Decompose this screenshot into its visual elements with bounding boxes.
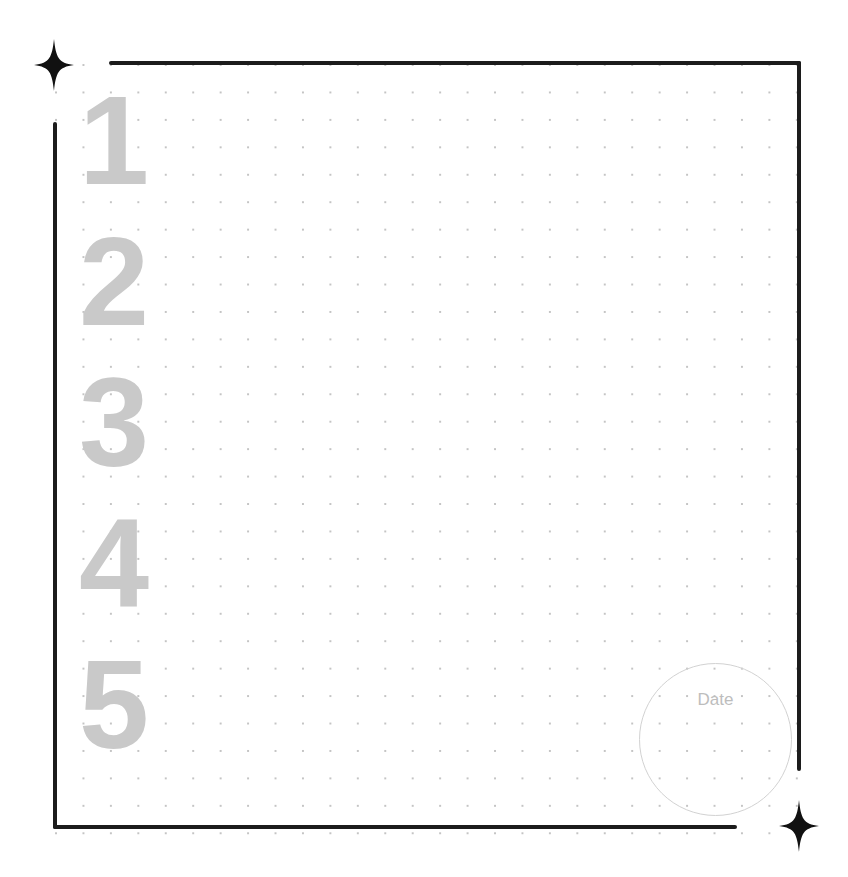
four-point-star-icon (779, 800, 819, 852)
frame-bottom-line (53, 825, 737, 829)
date-circle[interactable]: Date (639, 663, 792, 816)
list-number-2: 2 (74, 219, 154, 345)
date-label: Date (640, 690, 791, 710)
list-number-5: 5 (74, 642, 154, 768)
list-number-1: 1 (74, 78, 154, 204)
frame-right-line (797, 61, 801, 771)
list-number-3: 3 (74, 360, 154, 486)
list-number-4: 4 (74, 501, 154, 627)
four-point-star-icon (34, 39, 74, 91)
dot-grid-top5-page: 1 2 3 4 5 Date (0, 0, 848, 877)
frame-left-line (53, 122, 57, 829)
frame-top-line (109, 61, 801, 65)
